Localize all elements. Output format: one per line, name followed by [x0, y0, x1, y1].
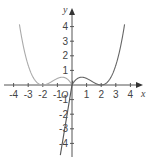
origin-label: O [61, 89, 68, 100]
y-tick-label: 4 [62, 21, 68, 32]
x-axis-label: x [140, 88, 146, 99]
x-tick-label: -2 [38, 89, 47, 100]
x-tick-label: -3 [24, 89, 33, 100]
curve-right [72, 24, 125, 85]
y-tick-label: -4 [59, 138, 68, 149]
y-axis-arrow-icon [69, 8, 75, 15]
x-tick-label: -4 [9, 89, 18, 100]
y-tick-label: 2 [62, 50, 68, 61]
y-tick-label: 1 [62, 65, 68, 76]
y-axis-label: y [62, 4, 68, 15]
x-tick-label: 4 [128, 89, 134, 100]
x-tick-label: 1 [84, 89, 90, 100]
x-tick-label: 2 [98, 89, 104, 100]
y-tick-label: 3 [62, 36, 68, 47]
x-tick-label: 3 [113, 89, 119, 100]
function-graph: -4-3-2-11234-4-3-2-11234xyO [0, 0, 146, 157]
